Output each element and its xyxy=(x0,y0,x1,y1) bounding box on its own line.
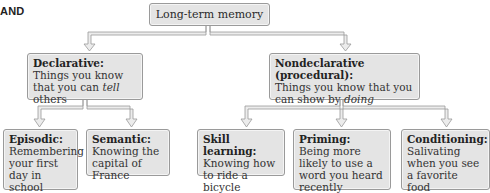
node-conditioning: Conditioning: Salivating when you see a … xyxy=(401,129,490,190)
connector-nondecl-mid xyxy=(336,109,347,127)
node-desc: Knowing the capital of France xyxy=(92,145,164,181)
node-title: Skill learning: xyxy=(203,133,279,157)
node-title: Priming: xyxy=(299,133,385,145)
node-desc: Remembering your first day in school xyxy=(9,145,72,193)
node-skill-learning: Skill learning: Knowing how to ride a bi… xyxy=(197,129,285,176)
node-label: Long-term memory xyxy=(156,8,263,21)
node-title: Declarative: xyxy=(33,57,137,69)
connector-root-right xyxy=(210,26,351,51)
node-semantic: Semantic: Knowing the capital of France xyxy=(86,129,170,176)
node-title: Episodic: xyxy=(9,133,72,145)
node-title: Conditioning: xyxy=(407,133,484,145)
node-desc: Things you know that you can tell others xyxy=(33,69,137,105)
node-desc: Knowing how to ride a bicycle xyxy=(203,157,279,193)
node-title: Semantic: xyxy=(92,133,164,145)
connector-root-left xyxy=(84,26,206,51)
node-desc: Being more likely to use a word you hear… xyxy=(299,145,385,193)
node-title: Nondeclarative (procedural): xyxy=(275,57,414,81)
node-long-term-memory: Long-term memory xyxy=(149,3,270,26)
node-desc: Things you know that you can show by doi… xyxy=(275,81,414,105)
node-nondeclarative: Nondeclarative (procedural): Things you … xyxy=(269,53,420,100)
node-priming: Priming: Being more likely to use a word… xyxy=(293,129,391,190)
node-episodic: Episodic: Remembering your first day in … xyxy=(3,129,78,190)
node-declarative: Declarative: Things you know that you ca… xyxy=(27,53,143,100)
node-desc: Salivating when you see a favorite food xyxy=(407,145,484,193)
